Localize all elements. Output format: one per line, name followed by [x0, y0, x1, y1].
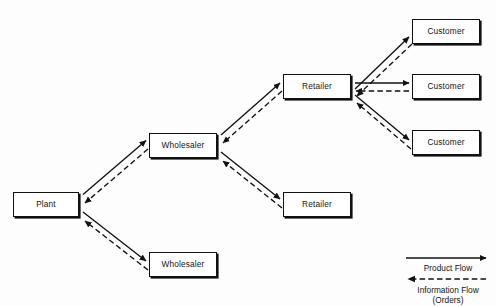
node-customer-1: Customer [412, 19, 480, 44]
node-label: Customer [427, 27, 464, 35]
information-flow-line [357, 44, 412, 96]
node-label: Customer [427, 138, 464, 146]
node-customer-2: Customer [412, 74, 480, 99]
node-wholesaler-bottom: Wholesaler [149, 252, 217, 277]
node-plant: Plant [13, 192, 79, 217]
node-label: Wholesaler [161, 260, 204, 268]
link-retailer-customer-1 [355, 37, 412, 96]
node-label: Plant [36, 200, 56, 208]
link-plant-wholesaler-bottom [83, 212, 148, 270]
link-plant-wholesaler-top [83, 141, 148, 204]
node-wholesaler-top: Wholesaler [149, 133, 217, 158]
information-flow-line [85, 221, 148, 270]
link-retailer-customer-2 [355, 83, 409, 91]
product-flow-arrow-icon [404, 252, 492, 263]
product-flow-line [355, 37, 409, 89]
node-label: Retailer [302, 200, 332, 208]
information-flow-arrow-icon [404, 274, 492, 285]
node-retailer-top: Retailer [283, 74, 351, 99]
product-flow-line [83, 212, 146, 261]
legend-product-flow-arrow-row [404, 252, 492, 263]
link-wholesaler-retailer-top [221, 83, 282, 143]
node-label: Retailer [302, 82, 332, 90]
information-flow-line [223, 161, 282, 208]
supply-chain-diagram: Plant Wholesaler Wholesaler Retailer Ret… [0, 0, 496, 306]
node-label: Wholesaler [161, 141, 204, 149]
information-flow-line [85, 149, 148, 203]
information-flow-line [357, 103, 411, 149]
legend: Product Flow Information Flow (Orders) [404, 252, 492, 306]
link-wholesaler-retailer-bottom [221, 152, 282, 208]
legend-information-flow-label: Information Flow [404, 285, 492, 296]
product-flow-line [221, 83, 280, 135]
product-flow-line [83, 141, 146, 195]
legend-information-flow-arrow-row [404, 274, 492, 285]
information-flow-line [223, 91, 282, 143]
node-customer-3: Customer [412, 130, 480, 155]
legend-product-flow-label: Product Flow [404, 263, 492, 274]
node-retailer-bottom: Retailer [283, 192, 351, 217]
product-flow-line [221, 152, 280, 199]
link-retailer-customer-3 [355, 95, 411, 149]
node-label: Customer [427, 82, 464, 90]
product-flow-line [355, 95, 409, 140]
legend-information-flow-sublabel: (Orders) [404, 295, 492, 306]
